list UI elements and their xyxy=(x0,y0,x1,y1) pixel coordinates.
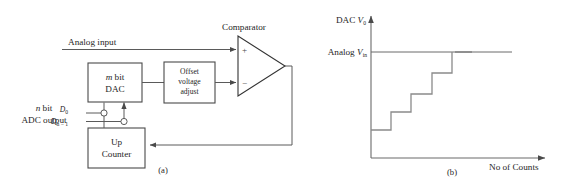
panel-a-caption: (a) xyxy=(158,165,168,175)
dac-block-line1: m bit xyxy=(106,72,125,82)
bit-line-0-node[interactable] xyxy=(101,110,107,116)
adc-output-line1: n bit xyxy=(36,103,53,113)
panel-b: DAC V0 Analog Vin No of Counts (b) xyxy=(328,15,545,177)
panel-b-caption: (b) xyxy=(447,167,457,177)
panel-a: Analog input m bit DAC Offset voltage ad… xyxy=(21,22,292,175)
threshold-label: Analog Vin xyxy=(328,47,368,58)
y-axis-label: DAC V0 xyxy=(336,15,366,26)
x-axis-label: No of Counts xyxy=(489,162,539,172)
bit-line-n1-node[interactable] xyxy=(121,118,127,124)
dac-block xyxy=(88,63,142,102)
counter-block-line2: Counter xyxy=(102,149,132,159)
figure-container: Analog input m bit DAC Offset voltage ad… xyxy=(0,0,575,191)
analog-input-label: Analog input xyxy=(68,37,117,47)
offset-block-line2: voltage xyxy=(178,77,201,86)
offset-block-line1: Offset xyxy=(180,67,200,76)
adc-output-line2: ADC output xyxy=(21,115,67,125)
bit-label-d0: D0 xyxy=(59,105,68,115)
dac-staircase-trace xyxy=(371,52,452,130)
up-counter-block xyxy=(88,128,145,168)
offset-block-line3: adjust xyxy=(180,87,199,96)
dac-block-line2: DAC xyxy=(105,84,124,94)
adc-counter-figure: Analog input m bit DAC Offset voltage ad… xyxy=(0,0,575,191)
comparator-minus-terminal: − xyxy=(242,78,247,88)
counter-block-line1: Up xyxy=(111,137,123,147)
comparator-label: Comparator xyxy=(222,22,266,32)
comparator-plus-terminal: + xyxy=(242,45,247,55)
